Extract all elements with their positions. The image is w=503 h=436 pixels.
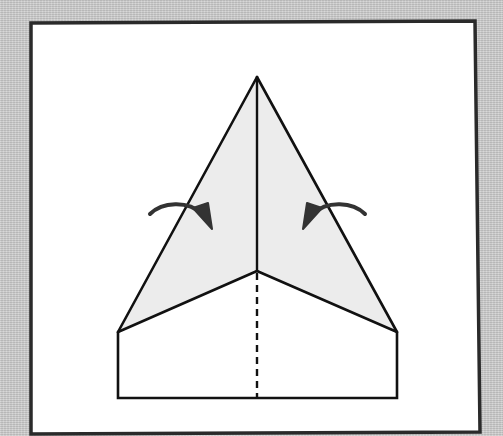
folding-diagram [0,0,503,436]
